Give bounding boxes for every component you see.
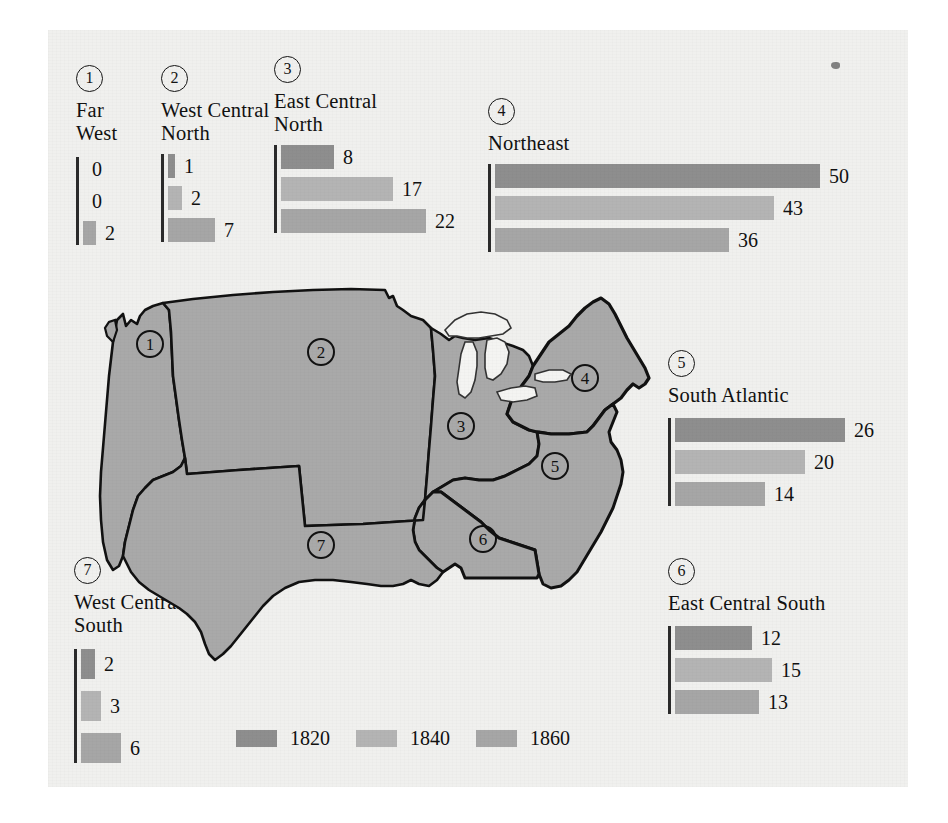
bar-value-1860: 6 — [130, 737, 140, 760]
us-regions-map: 1 2 3 4 5 — [93, 280, 713, 700]
panel-marker-3: 3 — [274, 56, 301, 83]
scanned-page: 1 Far West 0 0 2 2 West Central North 1 — [48, 30, 908, 787]
legend-label-1820: 1820 — [290, 727, 330, 750]
bar-group-far-west: 0 0 2 — [76, 157, 172, 245]
bar-row-1840: 0 — [83, 189, 172, 213]
bar-value-1820: 50 — [829, 165, 849, 188]
bar-value-1820: 1 — [184, 155, 194, 178]
lake-ontario-icon — [535, 370, 571, 382]
bar-1860 — [495, 228, 729, 252]
bar-row-1820: 0 — [83, 157, 172, 181]
panel-title-far-west: Far West — [76, 99, 172, 145]
bar-row-1840: 17 — [281, 177, 484, 201]
bar-value-1860: 7 — [224, 219, 234, 242]
panel-northeast: 4 Northeast 50 43 36 — [488, 98, 888, 252]
legend-swatch-1820 — [236, 730, 277, 747]
bar-value-1840: 0 — [92, 190, 102, 213]
bar-1840 — [281, 177, 393, 201]
bar-value-1840: 15 — [781, 659, 801, 682]
bar-value-1860: 2 — [105, 222, 115, 245]
bar-value-1860: 22 — [435, 210, 455, 233]
svg-text:4: 4 — [581, 369, 590, 388]
panel-title-east-central-north: East Central North — [274, 90, 484, 136]
svg-text:1: 1 — [146, 335, 155, 354]
legend-label-1840: 1840 — [410, 727, 450, 750]
legend-item-1840: 1840 — [356, 727, 450, 750]
bar-1820 — [281, 145, 334, 169]
bar-1860 — [83, 221, 96, 245]
svg-text:5: 5 — [551, 457, 560, 476]
legend-item-1820: 1820 — [236, 727, 330, 750]
panel-marker-4: 4 — [488, 98, 515, 125]
panel-far-west: 1 Far West 0 0 2 — [76, 65, 172, 245]
bar-1820 — [168, 154, 175, 178]
bar-1840 — [168, 186, 182, 210]
svg-text:3: 3 — [457, 417, 466, 436]
panel-marker-1: 1 — [76, 65, 103, 92]
bar-group-east-central-north: 8 17 22 — [274, 145, 484, 233]
bar-value-1820: 8 — [343, 146, 353, 169]
bar-row-1820: 8 — [281, 145, 484, 169]
bar-1860 — [81, 733, 121, 763]
bar-row-1820: 50 — [495, 164, 888, 188]
legend-label-1860: 1860 — [530, 727, 570, 750]
panel-marker-2: 2 — [161, 65, 188, 92]
bar-value-1820: 26 — [854, 419, 874, 442]
bar-1820 — [495, 164, 820, 188]
legend-swatch-1840 — [356, 730, 397, 747]
lake-superior-icon — [445, 312, 511, 338]
legend: 1820 1840 1860 — [236, 727, 570, 750]
bar-1860 — [168, 218, 215, 242]
bar-value-1860: 14 — [774, 483, 794, 506]
svg-text:6: 6 — [479, 530, 488, 549]
bar-row-1840: 43 — [495, 196, 888, 220]
bar-1840 — [495, 196, 774, 220]
svg-text:2: 2 — [317, 343, 326, 362]
map-coast-notch — [105, 320, 117, 342]
svg-text:7: 7 — [317, 536, 326, 555]
bar-value-1840: 17 — [402, 178, 422, 201]
panel-east-central-north: 3 East Central North 8 17 22 — [274, 56, 484, 233]
bar-value-1840: 2 — [191, 187, 201, 210]
bar-value-1820: 0 — [92, 158, 102, 181]
bar-1860 — [281, 209, 426, 233]
bar-row-1860: 36 — [495, 228, 888, 252]
bar-value-1840: 20 — [814, 451, 834, 474]
map-land-shapes — [100, 289, 649, 660]
bar-value-1840: 43 — [783, 197, 803, 220]
bar-row-1860: 2 — [83, 221, 172, 245]
bar-group-northeast: 50 43 36 — [488, 164, 888, 252]
legend-item-1860: 1860 — [476, 727, 570, 750]
bar-value-1860: 13 — [768, 691, 788, 714]
legend-swatch-1860 — [476, 730, 517, 747]
bar-row-1860: 22 — [281, 209, 484, 233]
ink-speck — [831, 62, 840, 69]
panel-title-northeast: Northeast — [488, 132, 888, 155]
bar-value-1860: 36 — [738, 229, 758, 252]
bar-value-1820: 12 — [761, 627, 781, 650]
